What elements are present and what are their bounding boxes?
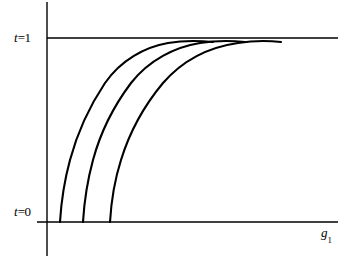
- curve-1: [60, 41, 213, 222]
- axis-label-t-equals-zero: t=0: [14, 205, 31, 218]
- g-variable-symbol: g: [321, 225, 328, 240]
- axis-label-t-equals-one: t=1: [14, 31, 31, 44]
- t-zero-value: 0: [24, 204, 31, 219]
- g-subscript: 1: [328, 235, 333, 245]
- figure-container: t=1 t=0 g1: [0, 0, 345, 263]
- t-one-value: 1: [24, 30, 31, 45]
- axis-label-g-one: g1: [321, 226, 332, 243]
- plot-canvas: [0, 0, 345, 263]
- curve-3: [110, 41, 281, 222]
- curve-2: [83, 41, 245, 222]
